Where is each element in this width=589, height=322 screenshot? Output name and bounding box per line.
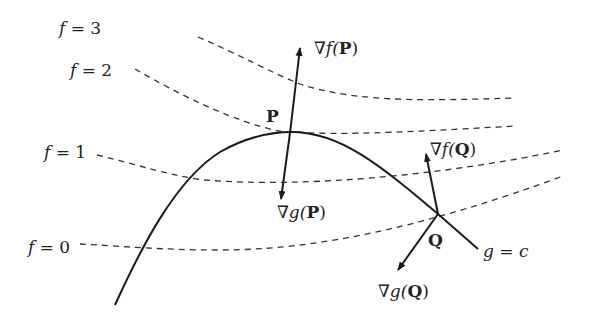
grad-f-P-prefix: ∇f( — [314, 38, 339, 58]
label-f3: f = 3 — [59, 20, 101, 37]
grad-f-Q-point: Q — [455, 139, 470, 159]
label-f2-eq: = — [76, 60, 101, 80]
grad-g-P-label: ∇g(P) — [277, 204, 326, 221]
constraint-c: c — [519, 241, 529, 261]
label-f3-val: 3 — [90, 18, 101, 38]
level-curve-f1 — [97, 150, 563, 182]
label-f0-val: 0 — [59, 237, 70, 257]
constraint-g: g — [483, 241, 494, 261]
diagram-svg — [0, 0, 589, 322]
grad-f-P-suffix: ) — [352, 38, 359, 58]
label-f2: f = 2 — [70, 62, 112, 79]
label-f0-eq: = — [34, 237, 59, 257]
constraint-eq: = — [494, 241, 519, 261]
grad-g-Q-label: ∇g(Q) — [378, 283, 429, 300]
grad-f-P-point: P — [339, 38, 352, 58]
grad-g-Q-point: Q — [407, 281, 422, 301]
label-f3-eq: = — [65, 18, 90, 38]
label-f1: f = 1 — [44, 144, 86, 161]
grad-g-P-arrow — [281, 133, 290, 199]
label-f2-val: 2 — [101, 60, 112, 80]
constraint-label: g = c — [483, 243, 528, 260]
grad-f-Q-prefix: ∇f( — [430, 139, 455, 159]
label-f0: f = 0 — [28, 239, 70, 256]
grad-g-Q-prefix: ∇g( — [378, 281, 407, 301]
diagram-canvas: f = 3 f = 2 f = 1 f = 0 P ∇f(P) ∇g(P) Q … — [0, 0, 589, 322]
point-P-label: P — [266, 108, 279, 125]
level-curve-f2 — [135, 69, 516, 133]
point-Q-label: Q — [428, 232, 443, 249]
grad-g-P-suffix: ) — [319, 202, 326, 222]
grad-f-Q-suffix: ) — [470, 139, 477, 159]
grad-f-P-arrow — [290, 48, 300, 133]
label-f1-eq: = — [50, 142, 75, 162]
grad-g-Q-suffix: ) — [422, 281, 429, 301]
grad-f-Q-label: ∇f(Q) — [430, 141, 476, 158]
grad-g-P-prefix: ∇g( — [277, 202, 306, 222]
grad-f-P-label: ∇f(P) — [314, 40, 358, 57]
grad-g-P-point: P — [306, 202, 319, 222]
label-f1-val: 1 — [75, 142, 86, 162]
